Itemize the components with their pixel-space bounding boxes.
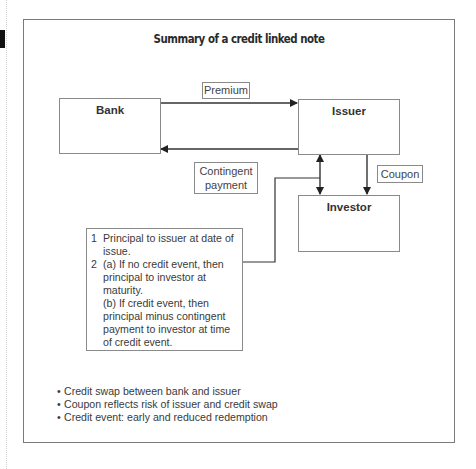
investor-box: Investor — [298, 195, 400, 252]
bullet-icon: • — [57, 398, 64, 411]
bullet-item: • Credit event: early and reduced redemp… — [57, 411, 278, 424]
issuer-box: Issuer — [298, 99, 400, 155]
bullet-item: • Coupon reflects risk of issuer and cre… — [57, 398, 278, 411]
steps-box: 1 Principal to issuer at date of issue. … — [86, 228, 243, 351]
summary-bullets: • Credit swap between bank and issuer • … — [57, 385, 278, 424]
issuer-label: Issuer — [299, 105, 399, 117]
contingent-payment-label-line2: payment — [195, 178, 257, 192]
step-item: 1 Principal to issuer at date of issue. — [91, 232, 240, 258]
step-number: 2 — [91, 258, 103, 349]
coupon-tag: Coupon — [377, 165, 423, 183]
step-text: (b) If credit event, then principal minu… — [103, 297, 240, 349]
step-text: Principal to issuer at date of issue. — [103, 232, 240, 258]
bullet-icon: • — [57, 385, 64, 398]
step-item: 2 (a) If no credit event, then principal… — [91, 258, 240, 349]
step-text: (a) If no credit event, then principal t… — [103, 258, 240, 297]
bank-label: Bank — [60, 104, 160, 116]
bullet-text: Credit event: early and reduced redempti… — [64, 411, 268, 424]
bullet-text: Credit swap between bank and issuer — [64, 385, 241, 398]
bullet-text: Coupon reflects risk of issuer and credi… — [64, 398, 278, 411]
contingent-payment-label-line1: Contingent — [195, 164, 257, 178]
step-number: 1 — [91, 232, 103, 258]
premium-label: Premium — [204, 84, 248, 96]
bullet-item: • Credit swap between bank and issuer — [57, 385, 278, 398]
coupon-label: Coupon — [381, 168, 420, 180]
investor-label: Investor — [299, 201, 399, 213]
contingent-payment-tag: Contingent payment — [194, 162, 258, 194]
bank-box: Bank — [59, 98, 161, 154]
bullet-icon: • — [57, 411, 64, 424]
premium-tag: Premium — [202, 82, 250, 99]
